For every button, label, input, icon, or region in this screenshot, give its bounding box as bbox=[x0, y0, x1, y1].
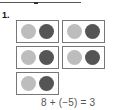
zero-pair-box-5 bbox=[16, 72, 59, 95]
negative-chip-icon bbox=[39, 76, 54, 91]
negative-chip-icon bbox=[85, 24, 100, 39]
problem-number: 1. bbox=[2, 10, 10, 20]
positive-chip-icon bbox=[21, 76, 36, 91]
zero-pair-box-1 bbox=[16, 20, 59, 43]
zero-pair-box-3 bbox=[16, 46, 59, 69]
zero-pair-box-2 bbox=[62, 20, 105, 43]
positive-chip-icon bbox=[21, 50, 36, 65]
positive-chip-icon bbox=[21, 24, 36, 39]
top-divider-mark bbox=[34, 2, 38, 4]
negative-chip-icon bbox=[39, 50, 54, 65]
equation: 8 + (−5) = 3 bbox=[41, 97, 95, 108]
positive-chip-icon bbox=[67, 24, 82, 39]
negative-chip-icon bbox=[85, 50, 100, 65]
positive-chip-icon bbox=[67, 50, 82, 65]
negative-chip-icon bbox=[39, 24, 54, 39]
top-divider-line bbox=[0, 2, 81, 3]
zero-pair-box-4 bbox=[62, 46, 105, 69]
